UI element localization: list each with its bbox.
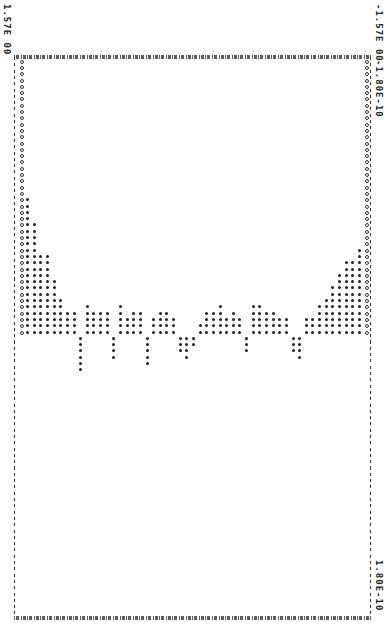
data-point [219,324,222,327]
data-point [46,305,49,308]
data-point [26,324,29,327]
edge-marker [365,104,369,108]
data-point [39,318,42,321]
data-point [245,349,248,352]
data-point [159,318,162,321]
edge-marker [365,299,369,303]
edge-marker [365,205,369,209]
edge-marker [365,274,369,278]
data-point [252,324,255,327]
edge-marker [365,318,369,322]
data-point [351,280,354,283]
data-point [53,331,56,334]
data-point [132,324,135,327]
data-point [292,349,295,352]
data-point [26,255,29,258]
edge-marker [365,123,369,127]
edge-marker [20,110,24,114]
data-point [351,286,354,289]
data-point [345,274,348,277]
data-point [112,356,115,359]
data-point [26,211,29,214]
data-point [331,286,334,289]
data-point [285,318,288,321]
data-point [351,299,354,302]
data-point [152,324,155,327]
data-point [331,312,334,315]
edge-marker [20,324,24,328]
data-point [33,299,36,302]
edge-marker [365,91,369,95]
edge-marker [365,148,369,152]
data-point [179,343,182,346]
edge-marker [365,60,369,64]
data-point [152,331,155,334]
data-point [26,305,29,308]
edge-marker [365,217,369,221]
data-point [46,318,49,321]
data-point [53,299,56,302]
data-point [33,230,36,233]
data-point [358,249,361,252]
data-point [325,324,328,327]
edge-marker [20,236,24,240]
data-point [146,362,149,365]
data-point [119,312,122,315]
data-point [146,337,149,340]
edge-marker [365,286,369,290]
data-point [33,223,36,226]
data-point [99,324,102,327]
data-point [205,318,208,321]
edge-marker [20,230,24,234]
data-point [325,318,328,321]
edge-marker [20,331,24,335]
data-point [59,324,62,327]
data-point [132,331,135,334]
data-point [318,312,321,315]
edge-marker [20,299,24,303]
data-point [26,223,29,226]
data-point [39,331,42,334]
data-point [53,280,56,283]
data-point [258,324,261,327]
data-point [338,280,341,283]
data-point [318,331,321,334]
edge-marker [365,160,369,164]
data-point [53,312,56,315]
data-point [66,331,69,334]
edge-marker [20,97,24,101]
data-point [159,312,162,315]
data-point [79,362,82,365]
data-point [219,318,222,321]
edge-marker [20,261,24,265]
data-point [33,249,36,252]
data-point [53,324,56,327]
data-point [358,312,361,315]
data-point [225,318,228,321]
data-point [292,337,295,340]
data-point [358,331,361,334]
data-point [33,274,36,277]
edge-marker [365,179,369,183]
data-point [358,318,361,321]
data-point [172,318,175,321]
edge-marker [365,135,369,139]
data-point [26,205,29,208]
data-point [59,331,62,334]
data-point [345,293,348,296]
data-point [26,236,29,239]
edge-marker [20,142,24,146]
data-point [33,280,36,283]
data-point [165,318,168,321]
edge-marker [365,85,369,89]
data-point [172,331,175,334]
data-point [73,331,76,334]
data-point [338,318,341,321]
data-point [345,318,348,321]
data-point [39,268,42,271]
data-point [252,331,255,334]
data-point [232,312,235,315]
data-point [345,286,348,289]
data-point [39,324,42,327]
data-point [265,331,268,334]
